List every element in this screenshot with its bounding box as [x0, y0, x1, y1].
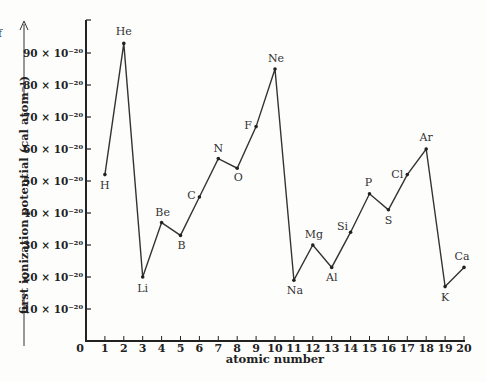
element-label: H: [100, 179, 110, 192]
x-tick-label: 15: [362, 342, 377, 355]
data-point-marker: [462, 266, 466, 270]
element-label: Ar: [419, 131, 434, 144]
x-tick-label: 19: [437, 342, 452, 355]
x-tick-label: 14: [343, 342, 359, 355]
element-label: Na: [287, 284, 304, 297]
x-tick-label: 20: [456, 342, 472, 355]
element-label: O: [234, 171, 243, 184]
element-label: P: [365, 176, 373, 189]
data-point-marker: [122, 42, 126, 46]
element-label: Be: [155, 206, 170, 219]
data-point-marker: [179, 234, 183, 238]
x-tick-label: 7: [214, 342, 222, 355]
element-label: Si: [337, 220, 349, 233]
y-axis-ticks: 10 × 10⁻²⁰20 × 10⁻²⁰30 × 10⁻²⁰40 × 10⁻²⁰…: [23, 47, 91, 315]
data-point-marker: [198, 195, 202, 199]
y-tick-label: 30 × 10⁻²⁰: [23, 239, 83, 251]
data-line: [105, 43, 464, 286]
x-tick-label: 0: [76, 342, 84, 355]
x-tick-label: 1: [101, 342, 109, 355]
data-point-marker: [330, 266, 334, 270]
element-label: Ca: [455, 250, 470, 263]
data-point-marker: [160, 221, 164, 225]
y-tick-label: 80 × 10⁻²⁰: [23, 79, 83, 91]
element-label: Ne: [268, 52, 284, 65]
data-point-marker: [311, 243, 315, 247]
x-axis-title: atomic number: [226, 352, 325, 366]
element-label: N: [213, 142, 223, 155]
data-point-marker: [424, 147, 428, 151]
x-tick-label: 16: [381, 342, 397, 355]
cropped-text-fragment: f: [0, 27, 3, 40]
ionization-chart: f first ionization potential (cal atom⁻¹…: [0, 0, 486, 382]
element-label: He: [116, 25, 132, 38]
element-label: Al: [325, 271, 338, 284]
y-tick-label: 10 × 10⁻²⁰: [23, 303, 83, 315]
element-label: Cl: [391, 168, 403, 181]
element-label: Mg: [305, 228, 323, 241]
data-point-marker: [217, 157, 221, 161]
y-tick-label: 50 × 10⁻²⁰: [23, 175, 83, 187]
element-label: B: [177, 239, 185, 252]
element-label: Li: [137, 282, 148, 295]
y-tick-label: 90 × 10⁻²⁰: [23, 47, 83, 59]
x-tick-label: 4: [158, 342, 166, 355]
y-tick-label: 40 × 10⁻²⁰: [23, 207, 83, 219]
x-tick-label: 13: [324, 342, 339, 355]
data-point-marker: [141, 275, 145, 279]
y-tick-label: 70 × 10⁻²⁰: [23, 111, 83, 123]
x-tick-label: 5: [177, 342, 185, 355]
data-point-marker: [254, 125, 258, 129]
x-tick-label: 6: [196, 342, 204, 355]
y-tick-label: 60 × 10⁻²⁰: [23, 143, 83, 155]
data-point-marker: [292, 278, 296, 282]
data-point-marker: [349, 230, 353, 234]
element-label: F: [244, 119, 252, 132]
element-label: K: [441, 291, 450, 304]
data-point-marker: [103, 173, 107, 177]
element-label: S: [385, 214, 393, 227]
data-point-marker: [406, 173, 410, 177]
data-point-marker: [273, 67, 277, 71]
x-tick-label: 18: [419, 342, 435, 355]
x-tick-label: 17: [400, 342, 415, 355]
data-point-marker: [443, 285, 447, 289]
element-label: C: [187, 189, 195, 202]
data-point-marker: [387, 208, 391, 212]
data-point-marker: [368, 192, 372, 196]
x-tick-label: 3: [139, 342, 147, 355]
y-tick-label: 20 × 10⁻²⁰: [23, 271, 83, 283]
data-point-marker: [235, 166, 239, 170]
x-tick-label: 2: [120, 342, 128, 355]
